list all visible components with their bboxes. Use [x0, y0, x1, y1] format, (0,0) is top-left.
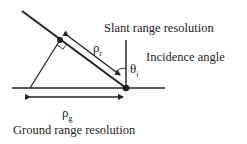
- point-marker: [123, 85, 130, 92]
- wavefront-line: [30, 40, 60, 88]
- rho-r-symbol: ρr: [93, 41, 102, 58]
- right-angle-icon: [57, 44, 67, 49]
- theta-subscript: i: [136, 70, 138, 79]
- incidence-angle-arc: [115, 68, 126, 72]
- rho-g-symbol: ρg: [62, 106, 73, 123]
- ground-range-label: Ground range resolution: [13, 124, 135, 137]
- rho-r-subscript: r: [100, 49, 103, 58]
- slant-range-label: Slant range resolution: [104, 22, 214, 35]
- incidence-angle-label: Incidence angle: [146, 51, 225, 64]
- point-marker: [57, 37, 63, 43]
- theta-symbol: θi: [130, 62, 138, 79]
- rho-g-subscript: g: [69, 114, 73, 123]
